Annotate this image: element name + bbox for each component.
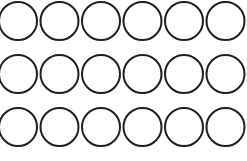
circle-grid-svg	[0, 0, 247, 161]
circle-grid-canvas	[0, 0, 247, 161]
